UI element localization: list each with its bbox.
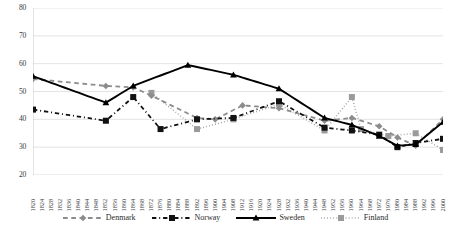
data-point-marker	[130, 94, 136, 100]
data-point-marker	[158, 126, 164, 132]
data-point-marker	[440, 136, 443, 142]
legend-item-denmark[interactable]: Denmark	[63, 213, 136, 223]
plot-svg	[33, 8, 443, 175]
line-chart: 20304050607080 1820182418281832183618401…	[0, 0, 451, 231]
data-point-marker	[80, 215, 87, 222]
data-point-marker	[349, 94, 355, 100]
data-point-marker	[440, 147, 443, 153]
data-point-marker	[103, 83, 110, 90]
data-point-marker	[413, 130, 419, 136]
plot-area	[33, 8, 443, 175]
data-point-marker	[194, 126, 200, 132]
legend-item-norway[interactable]: Norway	[152, 213, 221, 223]
data-point-marker	[212, 116, 219, 123]
data-point-marker	[276, 98, 282, 104]
data-point-marker	[194, 116, 200, 122]
legend-swatch-finland	[321, 213, 361, 223]
legend-swatch-sweden	[236, 213, 276, 223]
y-tick-label: 40	[0, 115, 26, 123]
legend-item-finland[interactable]: Finland	[321, 213, 388, 223]
y-tick-label: 50	[0, 88, 26, 96]
legend-label: Denmark	[106, 214, 136, 222]
data-point-marker	[349, 115, 356, 122]
y-tick-label: 80	[0, 4, 26, 12]
chart-legend: DenmarkNorwaySwedenFinland	[0, 208, 451, 228]
data-point-marker	[33, 107, 36, 113]
data-point-marker	[103, 118, 109, 124]
legend-item-sweden[interactable]: Sweden	[236, 213, 304, 223]
legend-label: Norway	[195, 214, 221, 222]
data-point-marker	[239, 102, 246, 109]
legend-label: Sweden	[279, 214, 304, 222]
legend-swatch-norway	[152, 213, 192, 223]
y-tick-label: 60	[0, 60, 26, 68]
data-point-marker	[338, 215, 344, 221]
data-point-marker	[230, 115, 236, 121]
series-line	[33, 97, 443, 147]
data-point-marker	[349, 127, 355, 133]
y-tick-label: 30	[0, 143, 26, 151]
data-point-marker	[376, 123, 383, 130]
data-point-marker	[169, 215, 175, 221]
x-axis: 1820182418281832183618401844184818521856…	[33, 177, 443, 211]
y-tick-label: 70	[0, 32, 26, 40]
y-tick-label: 20	[0, 171, 26, 179]
legend-swatch-denmark	[63, 213, 103, 223]
series-norway	[33, 94, 443, 150]
data-point-marker	[322, 125, 328, 131]
legend-label: Finland	[364, 214, 388, 222]
